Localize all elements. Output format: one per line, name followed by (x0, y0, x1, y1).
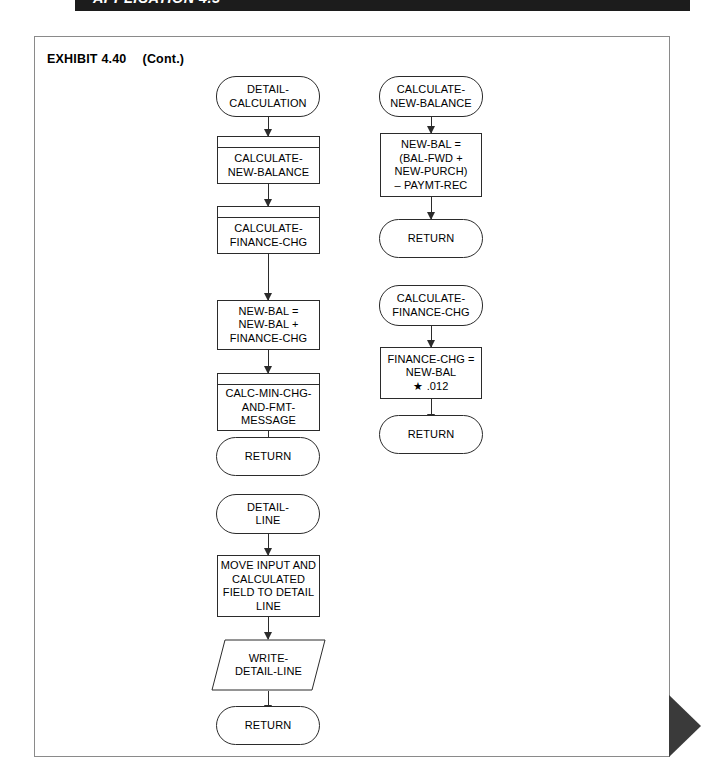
connector-r4-r5 (431, 326, 432, 347)
flow-node-calculate-finance-chg-entry[interactable]: CALCULATE- FINANCE-CHG (379, 285, 483, 326)
flow-node-calc-min-chg-and-fmt-message[interactable]: CALC-MIN-CHG- AND-FMT- MESSAGE (217, 373, 320, 431)
flow-node-new-bal-plus-finance-chg[interactable]: NEW-BAL = NEW-BAL + FINANCE-CHG (217, 300, 320, 350)
flow-node-return-calculate-new-balance[interactable]: RETURN (379, 219, 483, 258)
connector-l7-l8 (268, 534, 269, 555)
application-header-title: APPLICATION 4.3 (93, 0, 220, 6)
connector-l1-l2 (268, 117, 269, 136)
flow-node-calculate-finance-chg-call[interactable]: CALCULATE- FINANCE-CHG (217, 206, 320, 254)
connector-r2-r3 (431, 197, 432, 219)
flow-node-return-detail-line[interactable]: RETURN (216, 706, 320, 745)
flow-node-write-detail-line[interactable]: WRITE- DETAIL-LINE (211, 639, 326, 691)
flow-node-new-bal-formula[interactable]: NEW-BAL = (BAL-FWD + NEW-PURCH) – PAYMT-… (380, 133, 482, 197)
flowchart-canvas: DETAIL- CALCULATION CALCULATE- NEW-BALAN… (35, 37, 671, 758)
flow-node-move-input-and-calculated-field[interactable]: MOVE INPUT AND CALCULATED FIELD TO DETAI… (217, 555, 320, 617)
connector-r1-r2 (431, 117, 432, 133)
flow-node-calculate-new-balance-call[interactable]: CALCULATE- NEW-BALANCE (217, 136, 320, 184)
flow-node-return-calculate-finance-chg[interactable]: RETURN (379, 415, 483, 454)
application-header-banner: APPLICATION 4.3 (75, 0, 690, 11)
flow-node-detail-line[interactable]: DETAIL- LINE (216, 494, 320, 534)
connector-l3-l4 (268, 254, 269, 300)
exhibit-panel: EXHIBIT 4.40(Cont.) DETAIL- CALCULATION … (34, 36, 670, 757)
flow-node-detail-calculation[interactable]: DETAIL- CALCULATION (216, 76, 320, 117)
flow-node-finance-chg-formula[interactable]: FINANCE-CHG = NEW-BAL ★ .012 (380, 347, 482, 399)
flow-node-calculate-new-balance-entry[interactable]: CALCULATE- NEW-BALANCE (379, 76, 483, 117)
flow-node-return-detail-calculation[interactable]: RETURN (216, 437, 320, 476)
connector-l2-l3 (268, 184, 269, 206)
connector-l4-l5 (268, 350, 269, 373)
connector-l8-l9 (268, 617, 269, 639)
page-corner-triangle-icon (669, 695, 701, 757)
flow-node-write-detail-line-label: WRITE- DETAIL-LINE (235, 652, 302, 679)
